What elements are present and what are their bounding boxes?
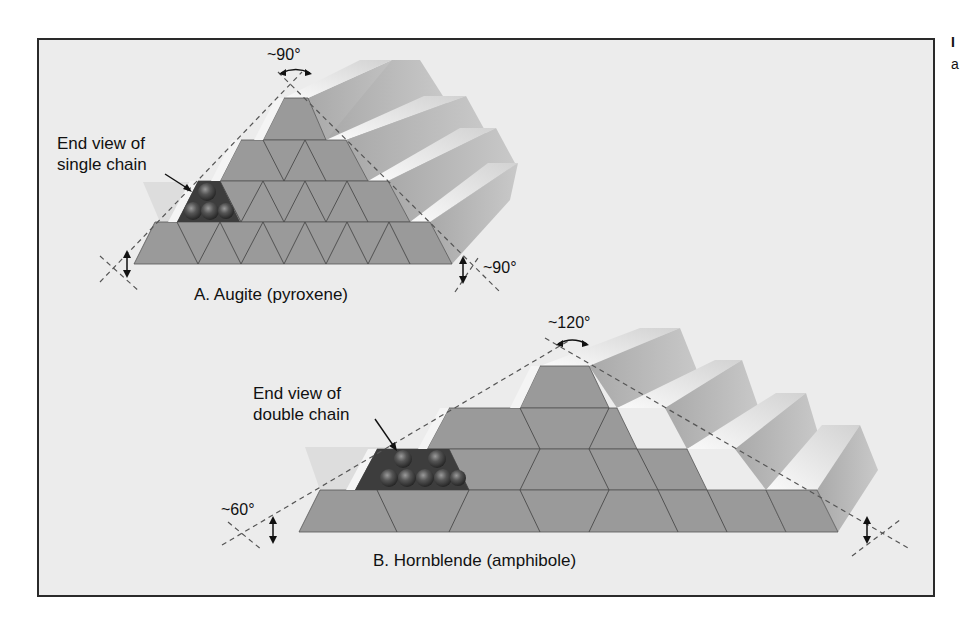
hornblende-callout-line2: double chain (253, 405, 349, 424)
hornblende-caption: B. Hornblende (amphibole) (373, 551, 576, 571)
hornblende-base-angle-label: ~60° (221, 501, 255, 519)
augite-callout-line1: End view of (57, 134, 145, 153)
augite-structure (100, 60, 518, 292)
augite-caption: A. Augite (pyroxene) (194, 285, 348, 305)
augite-top-angle-label: ~90° (267, 46, 301, 64)
augite-base-angle-label: ~90° (483, 259, 517, 277)
augite-callout-line2: single chain (57, 155, 147, 174)
margin-text-line1: I (951, 34, 955, 50)
silicate-chain-diagram (0, 0, 960, 617)
margin-text-line2: a (951, 56, 959, 72)
hornblende-top-angle-label: ~120° (548, 314, 590, 332)
hornblende-callout-line1: End view of (253, 384, 341, 403)
hornblende-structure (222, 328, 908, 556)
